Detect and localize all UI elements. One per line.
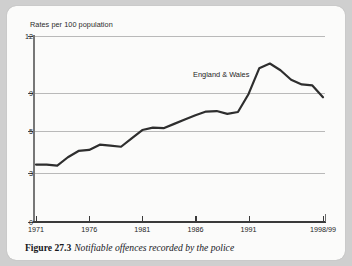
plot-area: 035912 197119761981198619911998/99 Engla… bbox=[7, 6, 345, 238]
figure-caption: Figure 27.3Notifiable offences recorded … bbox=[25, 242, 335, 253]
figure-caption-label: Figure 27.3 bbox=[25, 242, 71, 253]
series-line-england-and-wales bbox=[36, 64, 323, 166]
series-line-layer bbox=[7, 6, 345, 238]
figure-caption-text: Notifiable offences recorded by the poli… bbox=[74, 242, 234, 253]
chart-region: Rates per 100 population 035912 19711976… bbox=[7, 6, 345, 238]
figure-card: Rates per 100 population 035912 19711976… bbox=[7, 6, 345, 260]
series-annotation-label: England & Wales bbox=[193, 70, 249, 79]
